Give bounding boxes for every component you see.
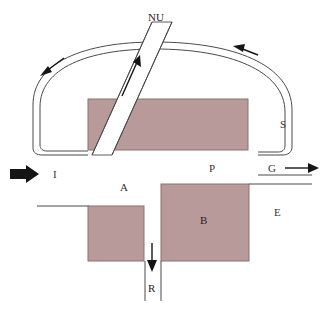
diagram-canvas: NU S I P G A B E R: [0, 0, 325, 311]
label-s: S: [280, 118, 286, 130]
label-nu: NU: [148, 11, 164, 23]
outlet-arrow: [285, 163, 319, 173]
label-g: G: [268, 162, 276, 174]
label-i: I: [53, 168, 57, 180]
label-r: R: [148, 282, 156, 294]
recycle-flow-arrow: [147, 243, 157, 272]
inlet-arrow: [10, 165, 39, 183]
schematic-diagram: NU S I P G A B E R: [0, 0, 325, 311]
label-p: P: [209, 162, 215, 174]
label-b: B: [200, 214, 207, 226]
label-a: A: [120, 181, 128, 193]
loop-flow-arrow-right: [233, 44, 258, 55]
block-a-rect: [88, 206, 144, 261]
label-e: E: [274, 206, 281, 218]
loop-left-closure-inner: [40, 145, 88, 151]
loop-flow-arrow-left: [40, 58, 64, 76]
